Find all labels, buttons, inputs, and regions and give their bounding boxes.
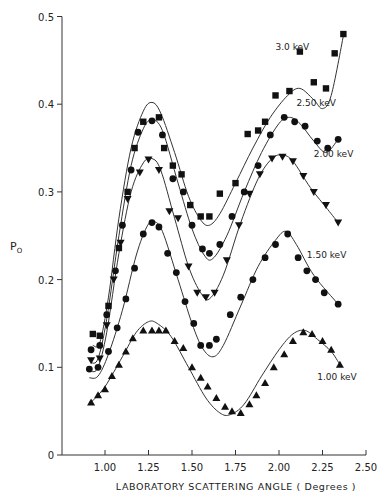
data-point-1-00-kev [336, 361, 344, 368]
data-point-2-00-kev [193, 290, 201, 297]
data-point-2-00-kev [278, 154, 286, 161]
series-label-1-00-kev: 1.00 keV [317, 372, 357, 382]
data-point-2-00-kev [299, 173, 307, 180]
data-point-2-00-kev [322, 202, 330, 209]
chart: 00.10.20.30.40.51.001.251.501.752.002.25… [0, 0, 389, 498]
data-point-3-0-kev [187, 202, 193, 208]
data-point-2-50-kev [302, 123, 309, 130]
data-point-2-50-kev [281, 114, 288, 121]
data-point-2-50-kev [149, 117, 156, 124]
data-point-1-00-kev [212, 394, 220, 401]
series-label-2-50-kev: 2.50 keV [296, 98, 336, 108]
data-point-2-50-kev [216, 241, 223, 248]
data-point-3-0-kev [217, 190, 223, 196]
data-point-1-50-kev [164, 250, 171, 257]
data-point-2-50-kev [291, 118, 298, 125]
data-point-2-50-kev [135, 129, 142, 136]
data-point-2-50-kev [159, 131, 166, 138]
data-point-2-50-kev [199, 246, 206, 253]
data-point-2-50-kev [206, 250, 213, 257]
data-point-1-50-kev [105, 348, 112, 355]
data-point-1-50-kev [149, 219, 156, 226]
data-point-1-50-kev [190, 320, 197, 327]
data-point-1-50-kev [284, 231, 291, 238]
data-point-1-00-kev [261, 379, 269, 386]
series-label-1-50-kev: 1.50 keV [307, 250, 347, 260]
data-point-1-50-kev [131, 265, 138, 272]
data-point-3-0-kev [286, 88, 292, 94]
data-point-1-00-kev [228, 407, 236, 414]
data-point-1-50-kev [272, 241, 279, 248]
data-point-2-50-kev [255, 162, 262, 169]
data-point-1-00-kev [101, 385, 109, 392]
data-point-1-00-kev [221, 403, 229, 410]
fit-curve-2-50-kev [91, 117, 338, 363]
series-label-2-00-kev: 2.00 keV [314, 149, 354, 159]
data-point-2-00-kev [185, 263, 193, 270]
data-point-1-00-kev [308, 330, 316, 337]
data-point-1-00-kev [197, 374, 205, 381]
data-point-1-50-kev [86, 366, 93, 373]
data-point-2-00-kev [334, 220, 342, 227]
data-point-2-50-kev [189, 222, 196, 229]
data-point-2-50-kev [128, 167, 135, 174]
data-point-1-00-kev [115, 361, 123, 368]
data-point-1-00-kev [188, 363, 196, 370]
y-tick-label: 0.5 [38, 12, 54, 23]
data-point-1-50-kev [182, 298, 189, 305]
data-point-1-50-kev [295, 254, 302, 261]
data-point-1-50-kev [312, 276, 319, 283]
data-point-3-0-kev [140, 119, 146, 125]
data-point-1-50-kev [122, 295, 129, 302]
data-point-3-0-kev [178, 171, 184, 177]
data-point-1-00-kev [108, 372, 116, 379]
data-point-2-50-kev [103, 311, 110, 318]
data-point-3-0-kev [90, 331, 96, 337]
data-point-1-00-kev [129, 334, 137, 341]
y-tick-label: 0.3 [38, 187, 54, 198]
data-point-3-0-kev [124, 189, 130, 195]
data-point-3-0-kev [331, 50, 337, 56]
data-point-1-50-kev [227, 311, 234, 318]
data-point-2-00-kev [256, 171, 264, 178]
data-markers [86, 31, 347, 416]
data-point-2-50-kev [335, 136, 342, 143]
x-axis-label: LABORATORY SCATTERING ANGLE ( Degrees ) [116, 481, 356, 492]
data-point-3-0-kev [161, 145, 167, 151]
data-point-1-00-kev [179, 344, 187, 351]
data-point-2-50-kev [229, 213, 236, 220]
data-point-1-50-kev [262, 254, 269, 261]
series-label-3-0-kev: 3.0 keV [276, 42, 311, 52]
data-point-1-50-kev [140, 231, 147, 238]
y-tick-label: 0 [48, 450, 54, 461]
data-point-3-0-kev [206, 213, 212, 219]
data-point-1-50-kev [303, 267, 310, 274]
y-tick-label: 0.1 [38, 362, 54, 373]
x-tick-label: 2.50 [355, 462, 377, 473]
data-point-2-00-kev [223, 257, 231, 264]
data-point-1-50-kev [335, 301, 342, 308]
data-point-1-50-kev [321, 289, 328, 296]
data-point-2-50-kev [88, 346, 95, 353]
data-point-1-50-kev [173, 269, 180, 276]
data-point-1-50-kev [156, 224, 163, 231]
data-point-1-00-kev [299, 328, 307, 335]
data-point-2-50-kev [180, 189, 187, 196]
x-tick-label: 1.50 [181, 462, 203, 473]
x-tick-label: 2.25 [311, 462, 333, 473]
x-tick-label: 1.25 [137, 462, 159, 473]
fit-curves [89, 36, 343, 416]
data-point-3-0-kev [340, 31, 346, 37]
data-point-2-50-kev [314, 138, 321, 145]
data-point-1-50-kev [250, 276, 257, 283]
data-point-1-00-kev [155, 326, 163, 333]
data-point-1-00-kev [289, 337, 297, 344]
data-point-2-50-kev [112, 267, 119, 274]
data-point-3-0-kev [262, 119, 268, 125]
data-point-1-50-kev [237, 294, 244, 301]
data-point-3-0-kev [105, 303, 111, 309]
data-point-1-50-kev [213, 336, 220, 343]
x-tick-label: 2.00 [268, 462, 290, 473]
data-point-1-00-kev [252, 391, 260, 398]
y-axis-label-subscript: O [17, 247, 23, 255]
